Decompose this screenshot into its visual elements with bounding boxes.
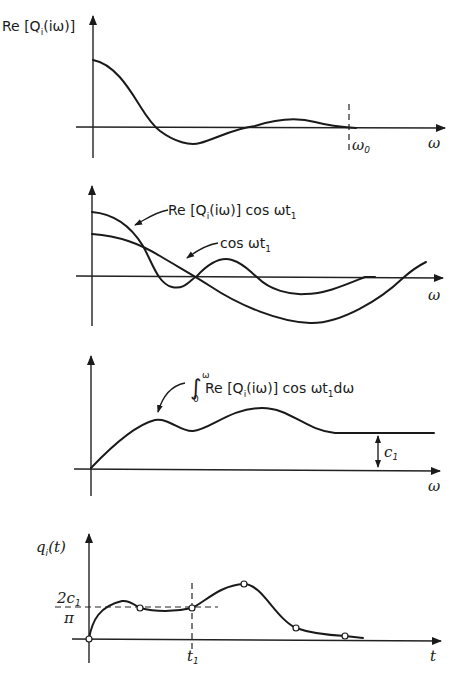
panel4-xlabel: t [430,647,437,665]
sample-point [241,581,247,587]
x-axis [76,276,443,278]
level-numerator: 2c1 [56,589,81,608]
product-curve [92,212,375,294]
panel-4: qi(t) 2c1 π t1 t [36,534,441,666]
integral-leader-arrow [158,383,185,412]
cos-annotation: cos ωt1 [220,235,271,254]
sample-point [189,605,195,611]
sample-point [342,633,348,639]
level-denominator: π [63,609,75,627]
integral-annotation: Re [Qi(iω)] cos ωt1dω [205,380,354,399]
product-leader-arrow [135,210,168,225]
panel1-xlabel: ω [428,134,440,152]
panel3-xlabel: ω [428,477,440,495]
omega0-label: ω0 [352,136,370,155]
sample-point [137,605,143,611]
figure-canvas: Re [Qi(iω)] ω0 ω Re [Qi(iω)] cos ωt1 cos… [0,0,463,693]
panel2-xlabel: ω [428,286,440,304]
product-annotation: Re [Qi(iω)] cos ωt1 [168,202,297,221]
integral-upper: ω [202,370,210,380]
t1-label: t1 [187,647,199,666]
panel1-ylabel: Re [Qi(iω)] [2,18,75,37]
panel-2: Re [Qi(iω)] cos ωt1 cos ωt1 ω [76,186,443,326]
c1-label: c1 [384,443,398,462]
x-axis [72,639,441,641]
panel4-ylabel: qi(t) [36,538,66,558]
sample-point [86,636,92,642]
integral-curve [91,408,434,468]
cos-leader-arrow [187,243,218,258]
integral-lower: 0 [193,394,199,404]
q-curve [89,584,363,639]
x-axis [74,469,440,471]
sample-point [293,625,299,631]
panel-3: ∫ ω 0 Re [Qi(iω)] cos ωt1dω c1 ω [74,356,440,496]
x-axis [76,127,445,128]
re-q-curve [93,60,356,144]
panel-1: Re [Qi(iω)] ω0 ω [2,16,445,158]
